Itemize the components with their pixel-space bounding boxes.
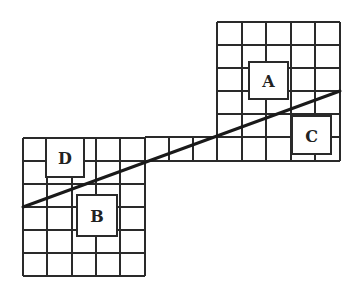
box-b-label: B bbox=[90, 207, 104, 226]
box-c-label: C bbox=[305, 127, 318, 146]
box-a-label: A bbox=[261, 72, 275, 91]
box-d: D bbox=[46, 138, 84, 177]
labeled-boxes: A C D B bbox=[46, 62, 331, 236]
box-d-label: D bbox=[58, 149, 72, 168]
grid-diagram: A C D B bbox=[0, 0, 360, 291]
box-b: B bbox=[77, 195, 117, 236]
box-a: A bbox=[249, 62, 288, 99]
box-c: C bbox=[292, 116, 331, 154]
